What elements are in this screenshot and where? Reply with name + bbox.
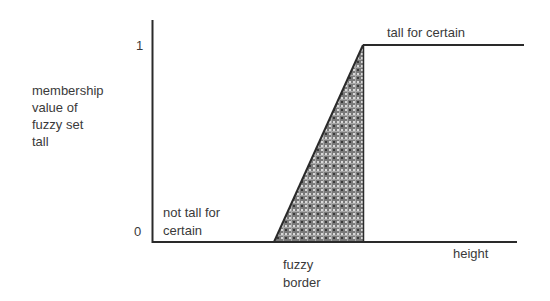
low-region-label: not tall for certain bbox=[163, 204, 220, 240]
high-region-label: tall for certain bbox=[387, 25, 465, 40]
low-region-label-line: certain bbox=[163, 222, 220, 240]
fuzzy-border-label-line: border bbox=[283, 274, 321, 292]
y-axis-label-line: membership bbox=[32, 82, 104, 99]
y-axis-label-line: tall bbox=[32, 133, 104, 150]
y-axis-label-line: value of bbox=[32, 99, 104, 116]
y-tick-1: 1 bbox=[136, 38, 143, 53]
x-axis-label: height bbox=[453, 246, 488, 261]
low-region-label-line: not tall for bbox=[163, 204, 220, 222]
y-axis-label: membership value of fuzzy set tall bbox=[32, 82, 104, 150]
y-axis-label-line: fuzzy set bbox=[32, 116, 104, 133]
fuzzy-border-label-line: fuzzy bbox=[283, 256, 321, 274]
y-tick-0: 0 bbox=[134, 224, 141, 239]
fuzzy-border-label: fuzzy border bbox=[283, 256, 321, 292]
